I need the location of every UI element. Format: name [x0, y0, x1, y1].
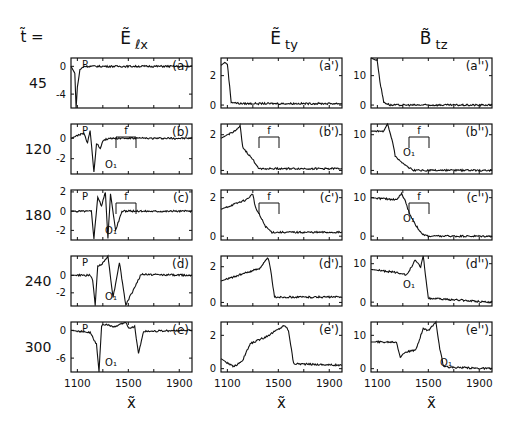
t-label: t̃ =: [19, 27, 43, 46]
annotation-P: P: [82, 191, 88, 202]
y-tick-label: 0: [210, 231, 216, 242]
y-tick-label: 2: [60, 186, 66, 197]
row-t-label: 180: [25, 207, 52, 223]
y-tick-label: 0: [210, 297, 216, 308]
annotation-O1: O₁: [105, 357, 117, 368]
annotation-f: f: [124, 125, 128, 136]
panel-e0: 0-6(e)PO₁110015001900x̃: [56, 322, 193, 412]
x-tick-label: 1900: [316, 377, 343, 389]
panel-d2: 100(d'')O₁: [353, 256, 492, 308]
x-tick-label: 1100: [364, 377, 391, 389]
panel-d0: 0-2(d)PO₁: [56, 256, 192, 306]
panel-c1: 20(c')f: [210, 190, 342, 242]
y-tick-label: -2: [56, 287, 66, 298]
column-subscript-Btz: tz: [436, 37, 448, 52]
panel-e2: 100(e'')O₁110015001900x̃: [353, 322, 492, 412]
panel-a2: 100(a''): [353, 58, 492, 111]
y-tick-label: 0: [60, 61, 66, 72]
panel-label: (e''): [466, 323, 489, 337]
y-tick-label: 0: [360, 363, 366, 374]
y-tick-label: -4: [56, 89, 66, 100]
x-tick-label: 1500: [115, 377, 142, 389]
column-title-Btz: B̃: [420, 28, 432, 48]
y-tick-label: 0: [360, 297, 366, 308]
y-tick-label: 2: [210, 261, 216, 272]
annotation-O1: O₁: [403, 147, 415, 158]
panel-a1: 20(a'): [210, 58, 342, 111]
panel-label: (e'): [319, 323, 339, 337]
panel-c2: 100(c'')O₁f: [353, 190, 492, 242]
y-tick-label: 10: [353, 330, 366, 341]
annotation-P: P: [82, 323, 88, 334]
annotation-O1: O₁: [403, 213, 415, 224]
y-tick-label: 0: [210, 363, 216, 374]
x-tick-label: 1900: [166, 377, 193, 389]
annotation-f: f: [267, 125, 271, 136]
panel-label: (b'): [319, 125, 339, 139]
panel-label: (e): [172, 323, 189, 337]
annotation-O1: O₁: [105, 159, 117, 170]
y-tick-label: -6: [56, 353, 66, 364]
y-tick-label: 0: [60, 206, 66, 217]
y-tick-label: 2: [210, 330, 216, 341]
y-tick-label: 10: [353, 70, 366, 81]
panel-label: (a'): [319, 59, 339, 73]
panel-label: (c): [173, 191, 189, 205]
column-title-Elx: Ẽ: [120, 27, 131, 48]
annotation-O1: O₁: [105, 291, 117, 302]
row-t-label: 45: [29, 75, 47, 91]
x-tick-label: 1900: [466, 377, 493, 389]
annotation-P: P: [82, 59, 88, 70]
panel-label: (d''): [465, 257, 489, 271]
y-tick-label: 0: [60, 133, 66, 144]
y-tick-label: -2: [56, 153, 66, 164]
annotation-f: f: [417, 191, 421, 202]
y-tick-label: 10: [353, 129, 366, 140]
panel-label: (b''): [465, 125, 489, 139]
annotation-P: P: [82, 257, 88, 268]
panel-b1: 20(b')f: [210, 124, 342, 176]
y-tick-label: 0: [60, 270, 66, 281]
annotation-f: f: [124, 191, 128, 202]
y-tick-label: 2: [210, 192, 216, 203]
panel-d1: 20(d'): [210, 256, 342, 308]
x-axis-label: x̃: [427, 394, 436, 412]
annotation-f: f: [417, 125, 421, 136]
y-tick-label: -2: [56, 225, 66, 236]
panel-label: (c''): [466, 191, 489, 205]
y-tick-label: 10: [353, 258, 366, 269]
annotation-f: f: [267, 191, 271, 202]
panel-label: (d): [172, 257, 189, 271]
annotation-O1: O₁: [440, 357, 452, 368]
column-subscript-Elx: ℓx: [134, 37, 148, 52]
y-tick-label: 0: [210, 100, 216, 111]
annotation-O1: O₁: [105, 225, 117, 236]
x-tick-label: 1500: [265, 377, 292, 389]
y-tick-label: 2: [210, 70, 216, 81]
x-axis-label: x̃: [127, 394, 136, 412]
y-tick-label: 10: [353, 192, 366, 203]
x-tick-label: 1100: [64, 377, 91, 389]
row-t-label: 240: [25, 273, 52, 289]
panel-c0: 20-2(c)PO₁f: [56, 186, 192, 240]
panel-label: (d'): [319, 257, 339, 271]
annotation-P: P: [82, 125, 88, 136]
y-tick-label: 0: [360, 165, 366, 176]
panel-label: (b): [172, 125, 189, 139]
panel-b2: 100(b'')O₁f: [353, 124, 492, 176]
column-subscript-Ety: ty: [285, 37, 298, 52]
y-tick-label: 0: [210, 165, 216, 176]
panel-a0: 0-4(a)P: [56, 58, 192, 108]
y-tick-label: 0: [360, 231, 366, 242]
y-tick-label: 2: [210, 129, 216, 140]
panel-label: (a): [172, 59, 189, 73]
panel-e1: 20(e')110015001900x̃: [210, 322, 343, 412]
y-tick-label: 0: [60, 325, 66, 336]
row-t-label: 300: [25, 339, 52, 355]
x-axis-label: x̃: [277, 394, 286, 412]
annotation-O1: O₁: [403, 279, 415, 290]
row-t-label: 120: [25, 141, 52, 157]
figure: t̃ =ẼℓxẼtyB̃tz451201802403000-4(a)P0-2(b…: [0, 0, 515, 429]
y-tick-label: 0: [360, 100, 366, 111]
x-tick-label: 1500: [415, 377, 442, 389]
